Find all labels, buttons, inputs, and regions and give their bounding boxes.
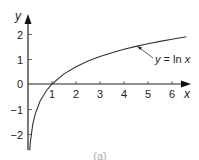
curve-label: y = ln x bbox=[154, 53, 191, 65]
y-tick-label: 0 bbox=[17, 78, 23, 90]
x-tick-label: 1 bbox=[49, 88, 55, 100]
x-tick-label: 5 bbox=[145, 88, 151, 100]
x-tick-label: 4 bbox=[121, 88, 127, 100]
x-tick-label: 6 bbox=[169, 88, 175, 100]
y-axis-arrow-icon bbox=[25, 14, 32, 24]
y-tick-label: −2 bbox=[10, 129, 23, 141]
x-tick-label: 2 bbox=[73, 88, 79, 100]
curve-label-leader bbox=[139, 48, 153, 59]
y-tick-label: −1 bbox=[10, 104, 23, 116]
ln-chart: 1 2 3 4 5 6 x 2 1 0 −1 −2 y y = ln x (a) bbox=[0, 0, 199, 160]
y-tick-label: 1 bbox=[17, 54, 23, 66]
y-axis-label: y bbox=[14, 9, 22, 23]
x-tick-label: 3 bbox=[97, 88, 103, 100]
y-tick-label: 2 bbox=[17, 29, 23, 41]
x-axis-label: x bbox=[183, 87, 191, 101]
figure-caption: (a) bbox=[93, 150, 106, 160]
